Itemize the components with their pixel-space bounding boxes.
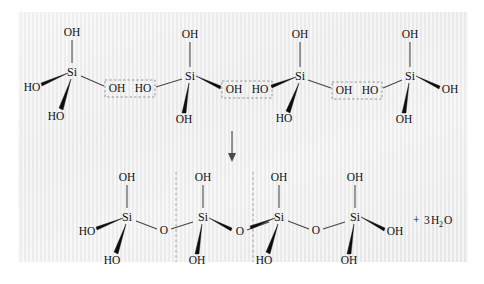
product-1-top-oh: OH <box>119 171 136 183</box>
reactant-3-top-oh: OH <box>292 28 309 40</box>
reactant-1-bottom-ho: HO <box>48 110 65 122</box>
reactant-4-top-oh: OH <box>402 28 419 40</box>
arrow-head-icon <box>228 153 236 162</box>
bridge-oxygen-3: O <box>312 224 320 236</box>
reactant-2-bottom-oh: OH <box>176 113 193 125</box>
reactant-unit-1: OH HO HO Si <box>24 26 104 122</box>
bond-psi2-bottom-wedge <box>195 224 202 254</box>
reactant-4-bottom-oh: OH <box>396 113 413 125</box>
reactant-unit-3: OH HO Si <box>271 28 331 124</box>
reactant-unit-4: OH OH OH Si <box>383 28 458 125</box>
bond-si1-bottom-wedge <box>59 79 71 110</box>
bond-si3-bottom-wedge <box>286 83 299 113</box>
bond-si2-right-wedge <box>196 76 221 89</box>
bond-si1-right <box>81 76 104 86</box>
bond-psi2-right-wedge <box>209 218 232 231</box>
reactant-3-si: Si <box>295 69 306 83</box>
product-unit-2: OH OH Si <box>189 171 232 266</box>
reactant-unit-2: OH OH Si <box>156 28 221 125</box>
leaving-group-pair-3: OH HO <box>332 82 382 99</box>
reactant-1-top-oh: OH <box>64 26 81 38</box>
bridge-oxygen-2: O <box>236 225 244 237</box>
reaction-arrow <box>228 131 236 162</box>
leaving-1-ho: HO <box>135 82 152 94</box>
product-unit-3: OH HO Si <box>250 171 309 266</box>
bond-psi1-left-wedge <box>96 218 123 230</box>
bond-si1-left-wedge <box>41 73 68 86</box>
reactant-1-si: Si <box>67 65 78 79</box>
bond-psi3-to-o3 <box>288 221 309 229</box>
reactant-4-right-oh: OH <box>442 83 459 95</box>
bond-si2-left <box>156 79 182 87</box>
product-1-bottom-ho: HO <box>104 254 121 266</box>
byproduct-o: O <box>444 214 452 226</box>
product-4-bottom-oh: OH <box>341 254 358 266</box>
leaving-2-ho: HO <box>252 83 269 95</box>
reactant-2-si: Si <box>185 69 196 83</box>
product-4-top-oh: OH <box>347 171 364 183</box>
bond-psi4-bottom-wedge <box>347 224 354 254</box>
product-3-si: Si <box>274 210 285 224</box>
product-1-left-ho: HO <box>79 225 96 237</box>
product-3-top-oh: OH <box>271 171 288 183</box>
bond-psi3-bottom-wedge <box>266 224 278 254</box>
byproduct-water: + 3 H 2 O <box>413 214 452 229</box>
bond-psi1-to-o1 <box>136 221 157 229</box>
byproduct-coefficient: 3 <box>424 214 430 226</box>
byproduct-plus: + <box>413 214 420 226</box>
bond-psi1-bottom-wedge <box>114 224 126 254</box>
product-2-top-oh: OH <box>195 171 212 183</box>
product-3-bottom-ho: HO <box>256 254 273 266</box>
reactant-3-bottom-ho: HO <box>276 112 293 124</box>
figure-canvas: OH HO HO Si OH HO OH OH Si OH <box>0 0 484 284</box>
leaving-group-pair-2: OH HO <box>222 81 272 98</box>
product-2-si: Si <box>198 210 209 224</box>
reactant-1-left-ho: HO <box>24 81 41 93</box>
product-unit-4: OH OH OH Si <box>341 171 404 266</box>
bond-si4-left <box>383 80 402 88</box>
leaving-group-pair-1: OH HO <box>105 80 155 97</box>
leaving-3-ho: HO <box>362 84 379 96</box>
product-4-si: Si <box>350 210 361 224</box>
reaction-scheme: OH HO HO Si OH HO OH OH Si OH <box>0 0 484 284</box>
bond-si4-right-wedge <box>416 76 440 89</box>
bond-o3-to-psi4 <box>323 222 345 229</box>
product-unit-1: OH HO HO Si <box>79 171 157 266</box>
byproduct-subscript: 2 <box>439 220 443 229</box>
reactant-2-top-oh: OH <box>182 28 199 40</box>
reactant-4-si: Si <box>405 69 416 83</box>
bond-si2-bottom-wedge <box>182 83 189 113</box>
bond-psi4-right-wedge <box>361 217 385 231</box>
product-4-right-oh: OH <box>387 225 404 237</box>
bridge-oxygen-1: O <box>160 224 168 236</box>
leaving-2-oh: OH <box>226 83 243 95</box>
leaving-1-oh: OH <box>109 82 126 94</box>
bond-o1-to-psi2 <box>171 222 193 229</box>
bond-si4-bottom-wedge <box>402 83 409 113</box>
product-1-si: Si <box>122 210 133 224</box>
bond-si3-left-wedge <box>271 77 296 88</box>
product-2-bottom-oh: OH <box>189 254 206 266</box>
bond-psi3-left-wedge <box>250 218 275 229</box>
leaving-3-oh: OH <box>336 84 353 96</box>
bond-si3-right <box>308 80 331 88</box>
